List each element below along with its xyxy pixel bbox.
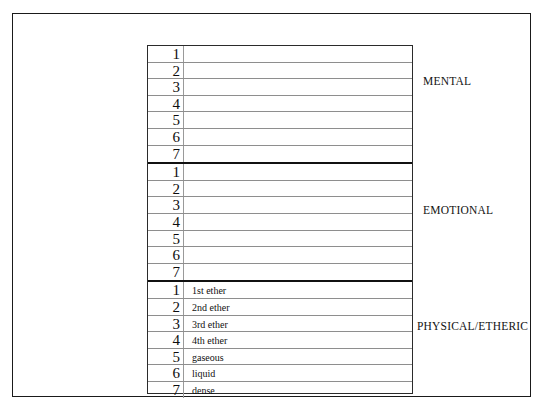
table-row: 5 gaseous: [148, 349, 412, 366]
row-number: 7: [148, 264, 184, 281]
planes-table: 1 2 3 4 5 6 7: [147, 45, 413, 394]
table-row: 1: [148, 46, 412, 63]
row-number: 5: [148, 349, 184, 365]
table-row: 6: [148, 247, 412, 264]
section-caption-mental: MENTAL: [423, 75, 471, 87]
row-number: 6: [148, 247, 184, 263]
table-row: 2 2nd ether: [148, 299, 412, 316]
row-number: 5: [148, 231, 184, 247]
section-caption-physical-etheric: PHYSICAL/ETHERIC: [417, 320, 528, 332]
table-row: 4 4th ether: [148, 332, 412, 349]
row-number: 3: [148, 197, 184, 213]
table-row: 2: [148, 63, 412, 80]
row-number: 4: [148, 214, 184, 230]
row-label: dense: [192, 382, 215, 399]
row-label: gaseous: [192, 349, 224, 365]
row-number: 7: [148, 146, 184, 163]
table-row: 2: [148, 181, 412, 198]
row-number: 3: [148, 316, 184, 332]
row-number: 1: [148, 164, 184, 180]
row-number: 6: [148, 365, 184, 381]
row-number: 2: [148, 181, 184, 197]
row-number: 2: [148, 63, 184, 79]
table-row: 7: [148, 264, 412, 281]
table-row: 4: [148, 214, 412, 231]
section-physical-etheric: 1 1st ether 2 2nd ether 3 3rd ether 4 4t…: [148, 282, 412, 398]
row-number: 2: [148, 299, 184, 315]
table-row: 1: [148, 164, 412, 181]
table-row: 1 1st ether: [148, 282, 412, 299]
row-label: 2nd ether: [192, 299, 230, 315]
table-row: 6: [148, 129, 412, 146]
table-row: 4: [148, 96, 412, 113]
table-row: 6 liquid: [148, 365, 412, 382]
section-caption-emotional: EMOTIONAL: [423, 204, 493, 216]
table-row: 7: [148, 146, 412, 163]
row-label: liquid: [192, 365, 215, 381]
row-label: 1st ether: [192, 282, 226, 298]
section-emotional: 1 2 3 4 5 6 7: [148, 164, 412, 282]
row-number: 1: [148, 46, 184, 62]
table-row: 5: [148, 231, 412, 248]
row-number: 1: [148, 282, 184, 298]
table-row: 3 3rd ether: [148, 316, 412, 333]
row-label: 3rd ether: [192, 316, 228, 332]
row-number: 4: [148, 96, 184, 112]
row-number: 6: [148, 129, 184, 145]
table-row: 3: [148, 197, 412, 214]
row-label: 4th ether: [192, 332, 227, 348]
table-row: 7 dense: [148, 382, 412, 399]
row-number: 3: [148, 79, 184, 95]
row-number: 7: [148, 382, 184, 399]
section-mental: 1 2 3 4 5 6 7: [148, 46, 412, 164]
diagram-frame: 1 2 3 4 5 6 7: [12, 13, 531, 397]
row-number: 4: [148, 332, 184, 348]
row-number: 5: [148, 112, 184, 128]
table-row: 3: [148, 79, 412, 96]
table-row: 5: [148, 112, 412, 129]
